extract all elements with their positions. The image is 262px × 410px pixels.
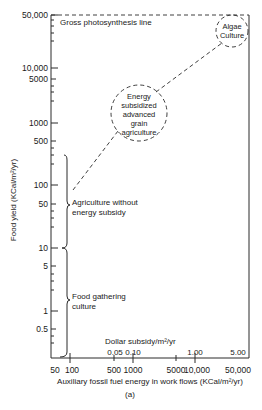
algae-culture-label: Algae Culture	[220, 22, 244, 40]
gross-line-label: Gross photosynthesis line	[60, 18, 152, 27]
svg-text:1: 1	[43, 306, 48, 316]
svg-text:1000: 1000	[29, 118, 48, 128]
svg-text:50: 50	[39, 199, 49, 209]
chart: Gross photosynthesis line	[0, 0, 262, 410]
svg-text:advanced: advanced	[123, 110, 156, 119]
x-tick-labels: 50 100 500 1000 5000 10,000 50,000	[50, 365, 251, 375]
y-axis-label: Food yield (KCal/m²/yr)	[9, 159, 18, 242]
svg-text:5000: 5000	[29, 74, 48, 84]
svg-text:50,000: 50,000	[22, 10, 48, 20]
x-axis-label: Auxiliary fossil fuel energy in work flo…	[57, 377, 243, 386]
svg-text:50,000: 50,000	[225, 365, 251, 375]
svg-text:1000: 1000	[124, 365, 143, 375]
svg-text:500: 500	[107, 365, 121, 375]
svg-text:Culture: Culture	[220, 31, 244, 40]
svg-text:5.00: 5.00	[230, 348, 246, 357]
panel-label: (a)	[125, 390, 135, 399]
food-gathering-label-line2: culture	[72, 302, 97, 311]
brace-food-gathering	[60, 248, 70, 357]
svg-text:10: 10	[39, 243, 49, 253]
svg-text:100: 100	[65, 365, 79, 375]
cropped-text-strip	[0, 404, 262, 410]
svg-text:10,000: 10,000	[22, 63, 48, 73]
svg-text:subsidized: subsidized	[121, 101, 156, 110]
svg-text:10,000: 10,000	[184, 365, 210, 375]
svg-text:grain: grain	[131, 119, 148, 128]
svg-text:5: 5	[43, 261, 48, 271]
agriculture-label-line2: energy subsidy	[72, 208, 126, 217]
svg-text:0.05: 0.05	[107, 348, 123, 357]
svg-text:agriculture: agriculture	[121, 128, 156, 137]
trend-line-lower	[73, 131, 118, 190]
dollar-tick-labels: 0.05 0.10 1.00 5.00	[107, 348, 246, 357]
dollar-axis-label: Dollar subsidy/m²/yr	[105, 337, 176, 346]
svg-text:Algae: Algae	[222, 22, 241, 31]
trend-line-upper	[156, 43, 222, 92]
svg-text:50: 50	[50, 365, 60, 375]
brace-agriculture	[62, 155, 70, 248]
svg-text:Energy: Energy	[127, 92, 151, 101]
y-major-ticks	[51, 15, 58, 329]
agriculture-label-line1: Agriculture without	[72, 198, 139, 207]
svg-text:100: 100	[34, 180, 48, 190]
y-tick-labels: 50,000 10,000 5000 1000 500 100 50 10 5 …	[22, 10, 48, 334]
grain-agriculture-label: Energy subsidized advanced grain agricul…	[121, 92, 156, 137]
svg-text:0.5: 0.5	[36, 324, 48, 334]
food-gathering-label-line1: Food gathering	[72, 292, 126, 301]
svg-text:500: 500	[34, 136, 48, 146]
svg-text:5000: 5000	[167, 365, 186, 375]
